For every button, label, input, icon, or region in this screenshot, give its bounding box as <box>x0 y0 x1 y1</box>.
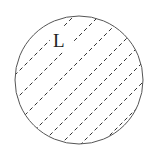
circle-outline <box>15 16 143 144</box>
region-label: L <box>53 31 65 50</box>
hatched-circle-diagram <box>0 0 154 154</box>
hatch-lines <box>0 10 154 154</box>
